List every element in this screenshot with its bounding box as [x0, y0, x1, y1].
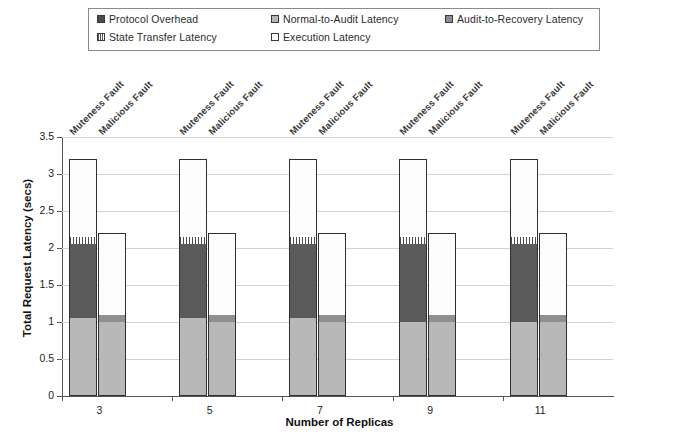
- group-tick-label: Malicious Fault: [427, 79, 485, 137]
- y-axis-tick: [57, 285, 62, 286]
- legend-label: Audit-to-Recovery Latency: [457, 13, 583, 25]
- x-axis-tick-label: 9: [427, 404, 433, 416]
- y-axis-tick: [57, 174, 62, 175]
- bar-segment: [428, 322, 456, 396]
- x-axis-title: Number of Replicas: [0, 416, 679, 428]
- bar-segment: [510, 159, 538, 237]
- legend-item-state-transfer-latency: State Transfer Latency: [97, 31, 217, 43]
- bar-segment: [428, 233, 456, 314]
- y-axis-tick: [57, 211, 62, 212]
- bar-segment: [69, 244, 97, 318]
- legend-item-normal-to-audit-latency: Normal-to-Audit Latency: [271, 13, 399, 25]
- y-axis-tick-label: 0.5: [39, 352, 54, 364]
- y-axis-tick-label: 2: [48, 241, 54, 253]
- bar-segment: [539, 315, 567, 322]
- bar-segment: [318, 322, 346, 396]
- y-axis-tick-label: 2.5: [39, 204, 54, 216]
- bar-segment: [289, 318, 317, 396]
- x-axis-tick: [62, 396, 63, 401]
- chart-legend: Protocol Overhead State Transfer Latency…: [88, 8, 600, 51]
- bar-segment: [179, 159, 207, 237]
- y-axis-tick-label: 3: [48, 167, 54, 179]
- bar-segment: [428, 315, 456, 322]
- x-axis-tick: [503, 396, 504, 401]
- bar-segment: [179, 318, 207, 396]
- legend-item-protocol-overhead: Protocol Overhead: [97, 13, 198, 25]
- bar-segment: [510, 244, 538, 322]
- legend-swatch-icon: [271, 33, 279, 41]
- group-tick-label: Malicious Fault: [206, 79, 264, 137]
- y-axis-tick-label: 1: [48, 315, 54, 327]
- x-axis-tick-label: 7: [317, 404, 323, 416]
- y-axis-tick-label: 3.5: [39, 130, 54, 142]
- bar-segment: [289, 159, 317, 237]
- legend-swatch-icon: [445, 15, 453, 23]
- bar-segment: [399, 237, 427, 244]
- y-axis-tick-label: 1.5: [39, 278, 54, 290]
- plot-area: 00.511.522.533.5357911: [62, 137, 613, 396]
- bar-segment: [289, 244, 317, 318]
- legend-label: Execution Latency: [283, 31, 371, 43]
- bar-segment: [98, 315, 126, 322]
- y-axis-tick: [57, 359, 62, 360]
- bar-segment: [208, 322, 236, 396]
- legend-swatch-icon: [97, 15, 105, 23]
- bar-segment: [399, 322, 427, 396]
- legend-item-execution-latency: Execution Latency: [271, 31, 371, 43]
- legend-label: State Transfer Latency: [109, 31, 217, 43]
- group-tick-label: Malicious Fault: [316, 79, 374, 137]
- bar-segment: [539, 322, 567, 396]
- bar-segment: [208, 315, 236, 322]
- x-axis-line: [62, 396, 614, 397]
- legend-swatch-icon: [97, 33, 105, 41]
- bar-segment: [539, 233, 567, 314]
- bar-segment: [69, 318, 97, 396]
- y-axis-title: Total Request Latency (secs): [21, 168, 33, 348]
- group-tick-label: Malicious Fault: [96, 79, 154, 137]
- x-axis-tick-label: 3: [97, 404, 103, 416]
- bar-segment: [510, 322, 538, 396]
- gridline: [62, 137, 613, 138]
- y-axis-tick-label: 0: [48, 389, 54, 401]
- bar-segment: [289, 237, 317, 244]
- bar-segment: [318, 233, 346, 314]
- bar-segment: [399, 159, 427, 237]
- x-axis-tick-label: 11: [535, 404, 546, 416]
- legend-swatch-icon: [271, 15, 279, 23]
- bar-segment: [208, 233, 236, 314]
- bar-segment: [98, 322, 126, 396]
- bar-segment: [318, 315, 346, 322]
- y-axis-tick: [57, 137, 62, 138]
- bar-segment: [69, 237, 97, 244]
- group-tick-label: Malicious Fault: [537, 79, 595, 137]
- x-axis-tick: [282, 396, 283, 401]
- x-axis-tick-label: 5: [207, 404, 213, 416]
- y-axis-tick: [57, 248, 62, 249]
- legend-label: Normal-to-Audit Latency: [283, 13, 399, 25]
- bar-segment: [98, 233, 126, 314]
- bar-segment: [179, 237, 207, 244]
- bar-segment: [399, 244, 427, 322]
- legend-item-audit-to-recovery-latency: Audit-to-Recovery Latency: [445, 13, 583, 25]
- bar-segment: [69, 159, 97, 237]
- x-axis-tick: [172, 396, 173, 401]
- legend-label: Protocol Overhead: [109, 13, 198, 25]
- chart-figure: Protocol Overhead State Transfer Latency…: [0, 0, 679, 443]
- bar-segment: [179, 244, 207, 318]
- bar-segment: [510, 237, 538, 244]
- x-axis-tick: [393, 396, 394, 401]
- y-axis-tick: [57, 322, 62, 323]
